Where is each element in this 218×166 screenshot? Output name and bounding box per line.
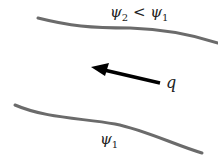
upper-label: ψ2 < ψ1 — [110, 3, 168, 23]
streamline-diagram: ψ2 < ψ1 ψ1 q — [0, 0, 218, 166]
flow-arrow — [91, 63, 160, 83]
lower-label: ψ1 — [100, 130, 118, 150]
flow-label-q: q — [166, 73, 176, 92]
